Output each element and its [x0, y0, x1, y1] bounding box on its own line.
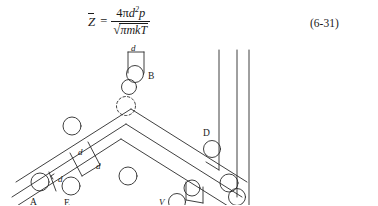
equation-number: (6-31): [310, 17, 339, 29]
label-D: D: [203, 128, 210, 138]
label-diameter-band-upper: d: [78, 147, 83, 157]
sphere-free-upper-left: [63, 117, 81, 135]
sphere-V: [169, 194, 186, 206]
label-diameter-left-small: d: [58, 174, 63, 184]
label-E: E: [64, 198, 70, 205]
label-B: B: [148, 71, 154, 81]
collision-cylinder-figure: d B d d d A E D V d C: [0, 45, 378, 205]
label-C: C: [224, 204, 230, 205]
numerator-p: p: [139, 6, 145, 20]
equation-lhs: Z: [88, 13, 95, 30]
label-diameter-bottom: d: [190, 204, 195, 205]
lhs-variable: Z: [88, 14, 95, 29]
equation-row: Z = 4πd2p √ πmkT (6-31): [0, 4, 378, 46]
square-root: √ πmkT: [113, 23, 148, 37]
equals-sign: =: [100, 14, 107, 29]
overbar-decoration: [88, 13, 94, 14]
band-outer-upper-left-edge: [16, 109, 131, 182]
band-inner-left-edge: [9, 139, 121, 205]
label-diameter-top: d: [131, 45, 136, 53]
label-diameter-band-lower: d: [96, 161, 101, 171]
band-outer-upper-right-edge: [131, 109, 247, 182]
sphere-A: [31, 173, 49, 191]
sphere-D: [204, 141, 221, 158]
scanned-page: Z = 4πd2p √ πmkT (6-31): [0, 0, 378, 205]
fraction: 4πd2p √ πmkT: [111, 6, 150, 37]
radicand: πmkT: [119, 23, 148, 37]
fraction-denominator: √ πmkT: [111, 22, 150, 37]
label-A: A: [30, 197, 37, 205]
sphere-free-center: [119, 167, 137, 185]
figure-svg: d B d d d A E D V d C: [0, 45, 378, 205]
equation-6-31: Z = 4πd2p √ πmkT: [88, 6, 150, 37]
sphere-B-vertex: [122, 80, 137, 95]
fraction-numerator: 4πd2p: [114, 6, 147, 21]
label-V: V: [159, 197, 166, 205]
bottom-d-box-bottom: [186, 200, 203, 203]
sphere-E: [62, 177, 80, 195]
